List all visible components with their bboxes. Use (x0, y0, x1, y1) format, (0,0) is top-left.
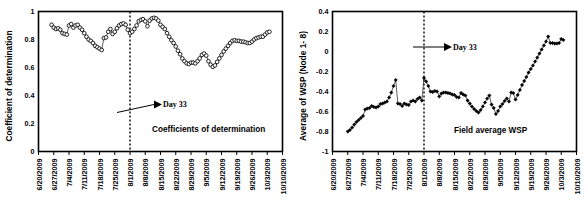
data-point (390, 91, 393, 94)
data-point (533, 60, 536, 63)
x-tick-label: 6/20/2009 (329, 159, 338, 191)
data-point (135, 24, 139, 28)
data-point (146, 24, 150, 28)
day33-arrow-head-right (444, 43, 452, 51)
x-tick-label: 8/15/2009 (451, 159, 460, 191)
data-point (518, 88, 521, 91)
data-point (529, 67, 532, 70)
series-markers-left (50, 16, 272, 69)
data-point (65, 33, 69, 37)
data-point (198, 57, 202, 61)
y-tick-label: 0 (31, 147, 35, 156)
data-point (104, 36, 108, 40)
data-point (213, 64, 217, 68)
data-point (174, 45, 178, 49)
y-axis-title-text-right: Average of WSP (Node 1- 8) (298, 31, 308, 141)
data-point (490, 103, 493, 106)
x-tick-label: 9/26/2009 (248, 159, 257, 191)
data-point (124, 23, 128, 27)
y-tick-label: 0 (325, 47, 329, 56)
x-tick-label: 8/8/2009 (435, 159, 444, 187)
x-tick-label: 7/11/2009 (374, 158, 383, 190)
x-tick-label: 8/8/2009 (141, 159, 150, 187)
day33-label-right: Day 33 (453, 43, 477, 52)
data-point (523, 79, 526, 82)
data-point (217, 57, 221, 61)
x-tick-label: 10/10/2009 (573, 159, 582, 195)
y-tick-label: 0.2 (25, 119, 35, 128)
x-tick-label: 7/25/2009 (111, 159, 120, 191)
x-tick-label: 9/5/2009 (202, 159, 211, 187)
series-label-left: Coefficients of determination (152, 125, 265, 134)
data-point (204, 54, 208, 58)
x-tick-label: 10/3/2009 (263, 159, 272, 191)
data-point (268, 30, 272, 34)
data-point (133, 27, 137, 31)
y-tick-label: -0.8 (316, 127, 328, 136)
figure-container: Coefficient of determination 00.20.40.60… (0, 0, 588, 208)
data-point (520, 83, 523, 86)
data-point (483, 101, 486, 104)
data-point (82, 31, 86, 35)
data-point (172, 41, 176, 45)
y-axis-title-text-left: Coefficient of determination (4, 30, 14, 141)
data-point (427, 84, 430, 87)
data-point (113, 30, 117, 34)
x-tick-label: 7/4/2009 (65, 159, 74, 187)
x-tick-label: 8/29/2009 (481, 159, 490, 191)
x-tick-labels-right: 6/20/20096/27/20097/4/20097/11/20097/18/… (329, 158, 582, 194)
data-point (100, 48, 104, 52)
y-tick-label: 1 (31, 7, 35, 16)
data-point (424, 80, 427, 83)
x-tick-label: 6/27/2009 (50, 159, 59, 191)
x-tick-label: 8/15/2009 (157, 159, 166, 191)
y-tick-label: -0.6 (316, 107, 328, 116)
x-tick-label: 7/18/2009 (390, 159, 399, 191)
data-point (126, 28, 130, 32)
data-point (540, 48, 543, 51)
y-tick-label: 0.4 (319, 7, 329, 16)
day33-label-left: Day 33 (163, 100, 187, 109)
x-tick-label: 8/1/2009 (420, 159, 429, 187)
x-tick-label: 9/12/2009 (512, 159, 521, 191)
x-tick-label: 8/22/2009 (172, 159, 181, 191)
y-tick-label: -0.4 (316, 87, 328, 96)
x-tick-label: 7/18/2009 (96, 159, 105, 191)
y-tick-label: 0.8 (25, 35, 35, 44)
data-point (207, 59, 211, 63)
x-tick-label: 7/11/2009 (80, 158, 89, 190)
x-tick-label: 8/22/2009 (466, 159, 475, 191)
x-tick-label: 6/27/2009 (344, 159, 353, 191)
data-point (422, 76, 425, 79)
chart-panel-coefficient-of-determination: Coefficient of determination 00.20.40.60… (0, 0, 294, 208)
x-tick-label: 9/19/2009 (527, 159, 536, 191)
y-tick-labels-left: 00.20.40.60.81 (25, 7, 35, 156)
data-point (392, 84, 395, 87)
data-point (58, 28, 62, 32)
data-point (163, 27, 167, 31)
data-point (516, 93, 519, 96)
x-tick-label: 10/10/2009 (279, 159, 288, 195)
x-tick-label: 9/26/2009 (542, 159, 551, 191)
data-point (109, 27, 113, 31)
data-point (215, 60, 219, 64)
x-tick-label: 9/5/2009 (496, 159, 505, 187)
data-point (527, 71, 530, 74)
data-point (220, 53, 224, 57)
x-tick-label: 8/29/2009 (187, 159, 196, 191)
data-point (538, 52, 541, 55)
x-tick-labels-left: 6/20/20096/27/20097/4/20097/11/20097/18/… (35, 158, 288, 194)
day33-annotation-left: Day 33 (117, 100, 187, 113)
data-point (525, 75, 528, 78)
data-point (492, 106, 495, 109)
day33-arrow-head-left (154, 101, 162, 109)
data-point (80, 28, 84, 32)
chart-svg-right: Average of WSP (Node 1- 8) -1-0.8-0.6-0.… (294, 0, 588, 208)
y-tick-labels-right: -1-0.8-0.6-0.4-0.200.20.4 (316, 7, 328, 156)
x-tick-label: 7/4/2009 (359, 159, 368, 187)
data-point (536, 56, 539, 59)
x-tick-label: 8/1/2009 (126, 159, 135, 187)
data-point (165, 31, 169, 35)
data-point (481, 105, 484, 108)
x-tick-label: 10/3/2009 (557, 159, 566, 191)
